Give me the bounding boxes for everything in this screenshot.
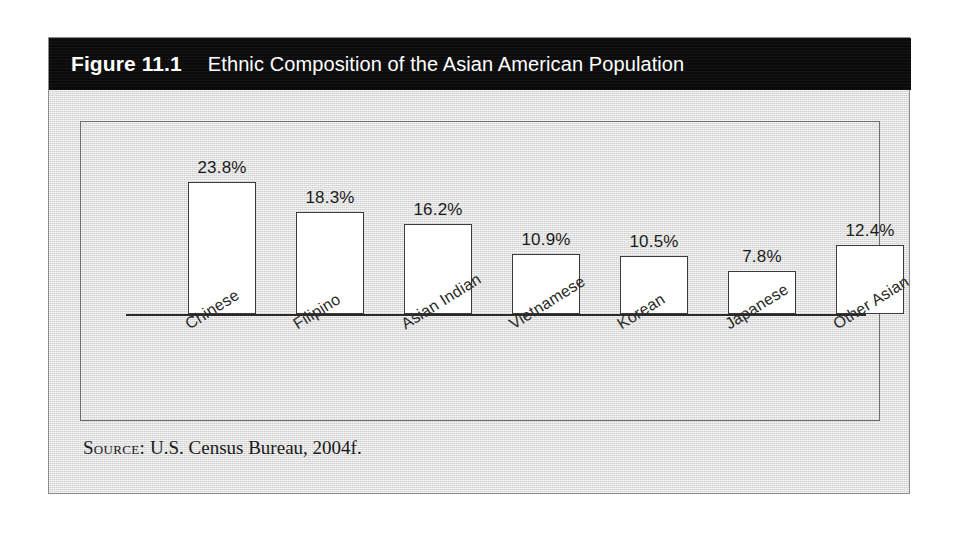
figure-panel: Figure 11.1 Ethnic Composition of the As…	[48, 37, 910, 494]
source-text: U.S. Census Bureau, 2004f.	[150, 437, 362, 458]
bar-value-label: 10.9%	[521, 230, 570, 250]
figure-number: Figure 11.1	[71, 52, 182, 76]
bar-value-label: 12.4%	[845, 221, 894, 241]
bar-value-label: 16.2%	[413, 200, 462, 220]
bar-value-label: 7.8%	[742, 247, 782, 267]
bar-value-label: 10.5%	[629, 232, 678, 252]
source-line: Source:U.S. Census Bureau, 2004f.	[83, 437, 362, 459]
bar-chart-plot-area: 23.8%18.3%16.2%10.9%10.5%7.8%12.4% Chine…	[80, 121, 880, 421]
bar-value-label: 23.8%	[197, 158, 246, 178]
figure-title: Ethnic Composition of the Asian American…	[208, 53, 685, 76]
source-label: Source:	[83, 437, 145, 458]
bar-value-label: 18.3%	[305, 188, 354, 208]
figure-header: Figure 11.1 Ethnic Composition of the As…	[49, 38, 911, 90]
